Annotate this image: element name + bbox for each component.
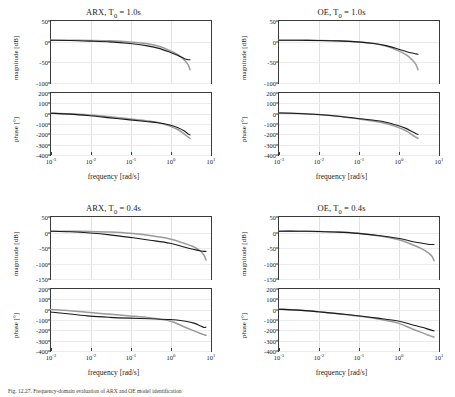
panel-arx-04: ARX, T0 = 0.4s500-50-100-1502001000-100-…	[0, 196, 227, 388]
bode-figure: ARX, T0 = 1.0s500-50-1002001000-100-200-…	[0, 0, 455, 397]
curve-estimate	[50, 312, 206, 328]
curve-estimate	[50, 113, 190, 135]
curve-estimate	[278, 113, 418, 134]
curve-layer	[0, 0, 227, 192]
curve-reference	[50, 113, 190, 138]
curve-layer	[228, 196, 455, 388]
curve-layer	[228, 0, 455, 192]
curve-layer	[0, 196, 227, 388]
curve-reference	[278, 309, 434, 337]
figure-caption: Fig. 12.27. Frequency-domain evaluation …	[8, 388, 448, 394]
panel-oe-1: OE, T0 = 1.0s500-50-1002001000-100-200-3…	[228, 0, 455, 192]
panel-arx-1: ARX, T0 = 1.0s500-50-1002001000-100-200-…	[0, 0, 227, 192]
curve-reference	[50, 309, 206, 335]
panel-oe-04: OE, T0 = 0.4s500-50-100-1502001000-100-2…	[228, 196, 455, 388]
